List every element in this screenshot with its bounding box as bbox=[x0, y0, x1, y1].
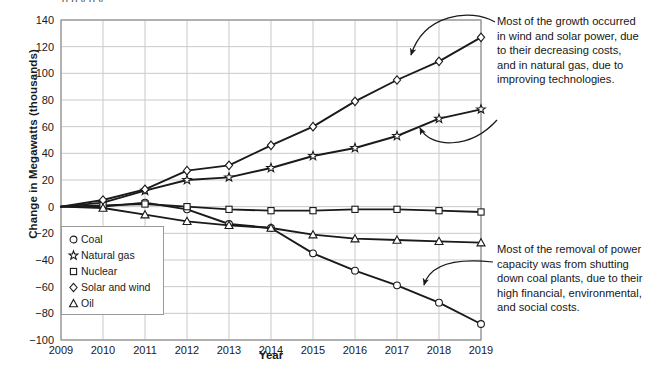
annotation-removal-note: Most of the removal of power capacity wa… bbox=[497, 242, 643, 315]
legend-item-solar-and-wind[interactable]: Solar and wind bbox=[67, 279, 158, 295]
square-marker-icon bbox=[67, 265, 80, 278]
star-marker-icon bbox=[67, 249, 80, 262]
diamond-marker-icon bbox=[67, 281, 80, 294]
series-solar-and-wind bbox=[61, 33, 485, 207]
series-natural-gas bbox=[61, 105, 485, 207]
circle-marker-icon bbox=[67, 233, 80, 246]
legend-item-natural-gas[interactable]: Natural gas bbox=[67, 247, 158, 263]
legend-label: Nuclear bbox=[81, 265, 117, 277]
legend-label: Coal bbox=[81, 233, 103, 245]
legend-label: Oil bbox=[81, 297, 94, 309]
legend-item-nuclear[interactable]: Nuclear bbox=[67, 263, 158, 279]
triangle-marker-icon bbox=[67, 297, 80, 310]
annotation-growth-note: Most of the growth occurred in wind and … bbox=[497, 14, 643, 87]
legend[interactable]: CoalNatural gasNuclearSolar and windOil bbox=[61, 226, 164, 315]
legend-item-oil[interactable]: Oil bbox=[67, 295, 158, 311]
legend-label: Solar and wind bbox=[81, 281, 150, 293]
legend-item-coal[interactable]: Coal bbox=[67, 231, 158, 247]
legend-label: Natural gas bbox=[81, 249, 135, 261]
chart-page: g p y g y Change in Megawatts (thousands… bbox=[0, 0, 645, 372]
series-nuclear bbox=[61, 201, 484, 215]
